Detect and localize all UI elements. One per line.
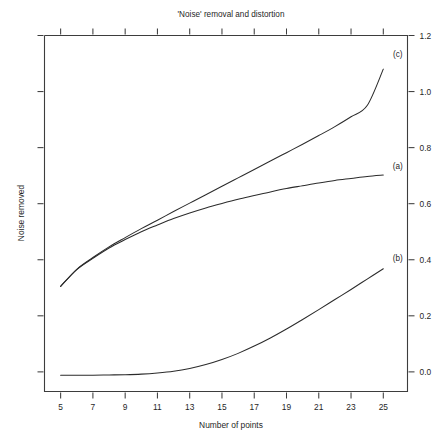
- x-tick-label: 11: [153, 402, 162, 412]
- series-labels-group: (a)(b)(c): [393, 50, 403, 263]
- plot-frame: [45, 36, 408, 392]
- chart-title: 'Noise' removal and distortion: [178, 10, 285, 19]
- y-axis-ticks-right: [409, 36, 415, 372]
- x-axis-title: Number of points: [199, 420, 263, 430]
- y-tick-label: 0.6: [420, 199, 432, 209]
- y-tick-label: 0.0: [420, 367, 432, 377]
- chart-figure: 'Noise' removal and distortion 579111315…: [0, 0, 444, 440]
- axes-box: [45, 36, 408, 392]
- x-tick-label: 15: [217, 402, 227, 412]
- y-tick-label: 0.8: [420, 143, 432, 153]
- y-tick-label: 0.2: [420, 311, 432, 321]
- y-tick-label: 0.4: [420, 255, 432, 265]
- y-tick-label: 1.0: [420, 87, 432, 97]
- x-tick-label: 25: [379, 402, 389, 412]
- x-axis-tick-labels: 5791113151719212325: [58, 402, 388, 412]
- y-axis-tick-labels: 0.00.20.40.60.81.01.2: [420, 31, 432, 377]
- series-curve-a: [61, 175, 384, 286]
- series-curve-b: [61, 269, 384, 376]
- x-tick-label: 21: [314, 402, 324, 412]
- x-tick-label: 13: [185, 402, 195, 412]
- x-axis-ticks-top: [61, 29, 384, 35]
- series-label-b: (b): [393, 254, 403, 263]
- x-tick-label: 17: [250, 402, 260, 412]
- x-tick-label: 19: [282, 402, 292, 412]
- x-tick-label: 5: [58, 402, 63, 412]
- data-series-group: [61, 69, 384, 375]
- x-tick-label: 23: [346, 402, 356, 412]
- x-axis-ticks-bottom: [61, 393, 384, 399]
- y-tick-label: 1.2: [420, 31, 432, 41]
- series-label-c: (c): [393, 50, 403, 59]
- series-curve-c: [61, 69, 384, 286]
- series-label-a: (a): [393, 162, 403, 171]
- x-tick-label: 7: [91, 402, 96, 412]
- y-axis-ticks-left: [38, 36, 44, 372]
- noise-removal-line-chart: 'Noise' removal and distortion 579111315…: [0, 0, 444, 440]
- y-axis-title: Noise removed: [16, 184, 26, 241]
- x-tick-label: 9: [123, 402, 128, 412]
